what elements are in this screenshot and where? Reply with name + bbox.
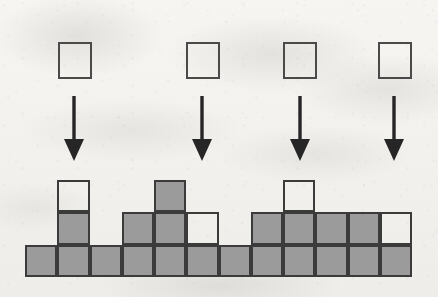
falling-piece-3	[283, 42, 317, 79]
grid-cell-r1c7	[219, 245, 251, 278]
down-arrow-2-icon	[191, 96, 213, 161]
grid-cell-r1c6	[186, 245, 218, 278]
grid-cell-r1c1	[25, 245, 57, 278]
down-arrow-4-icon	[383, 96, 405, 161]
grid-cell-r2c9	[283, 212, 315, 245]
falling-piece-1	[58, 42, 92, 79]
grid-cell-r2c8	[251, 212, 283, 245]
grid-cell-r1c8	[251, 245, 283, 278]
down-arrow-3-icon	[289, 96, 311, 161]
grid-cell-r2c2	[57, 212, 89, 245]
grid-cell-r1c2	[57, 245, 89, 278]
grid-cell-r1c11	[348, 245, 380, 278]
grid-cell-r1c12	[380, 245, 412, 278]
down-arrow-1-icon	[63, 96, 85, 161]
grid-cell-r2c6	[186, 212, 218, 245]
grid-cell-r2c10	[315, 212, 347, 245]
falling-piece-2	[186, 42, 220, 79]
grid-cell-r1c5	[154, 245, 186, 278]
grid-cell-r1c4	[122, 245, 154, 278]
grid-cell-r1c3	[90, 245, 122, 278]
grid-cell-r1c10	[315, 245, 347, 278]
grid-cell-r2c12	[380, 212, 412, 245]
falling-piece-4	[378, 42, 412, 79]
grid-cell-r3c5	[154, 180, 186, 213]
grid-cell-r2c11	[348, 212, 380, 245]
grid-cell-r1c9	[283, 245, 315, 278]
grid-cell-r3c2	[57, 180, 89, 213]
grid-cell-r2c4	[122, 212, 154, 245]
grid-cell-r2c5	[154, 212, 186, 245]
grid-cell-r3c9	[283, 180, 315, 213]
figure-canvas	[0, 0, 438, 297]
